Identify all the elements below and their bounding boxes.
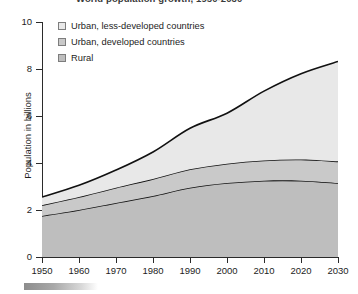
y-tick-label: 4 <box>6 158 32 168</box>
legend-item[interactable]: Urban, less-developed countries <box>58 19 204 33</box>
legend-swatch-icon <box>58 54 66 62</box>
legend-item-label: Rural <box>71 53 93 63</box>
chart-figure: World population growth, 1950-2030 Popul… <box>0 0 358 294</box>
legend-item[interactable]: Rural <box>58 51 204 65</box>
x-tick <box>79 257 80 263</box>
x-tick <box>190 257 191 263</box>
x-tick <box>301 257 302 263</box>
x-tick-label: 1960 <box>59 265 99 276</box>
y-tick-label: 6 <box>6 111 32 121</box>
x-tick <box>116 257 117 263</box>
legend: Urban, less-developed countriesUrban, de… <box>58 19 204 67</box>
legend-item-label: Urban, less-developed countries <box>71 21 204 31</box>
x-tick <box>338 257 339 263</box>
legend-swatch-icon <box>58 22 66 30</box>
footer-gradient-bar <box>24 283 98 290</box>
x-tick-label: 1990 <box>170 265 210 276</box>
y-tick-label: 2 <box>6 205 32 215</box>
x-tick <box>264 257 265 263</box>
y-tick-label: 8 <box>6 64 32 74</box>
x-tick <box>153 257 154 263</box>
x-tick-label: 1970 <box>96 265 136 276</box>
x-tick-label: 1950 <box>22 265 62 276</box>
x-tick <box>42 257 43 263</box>
x-tick-label: 2000 <box>207 265 247 276</box>
y-tick-label: 0 <box>6 252 32 262</box>
legend-item-label: Urban, developed countries <box>71 37 185 47</box>
x-tick <box>227 257 228 263</box>
chart-title: World population growth, 1950-2030 <box>76 0 316 5</box>
x-tick-label: 2030 <box>318 265 358 276</box>
y-tick-label: 10 <box>6 17 32 27</box>
x-tick-label: 1980 <box>133 265 173 276</box>
legend-swatch-icon <box>58 38 66 46</box>
legend-item[interactable]: Urban, developed countries <box>58 35 204 49</box>
x-tick-label: 2020 <box>281 265 321 276</box>
y-axis-label: Population in billions <box>22 56 33 216</box>
x-tick-label: 2010 <box>244 265 284 276</box>
